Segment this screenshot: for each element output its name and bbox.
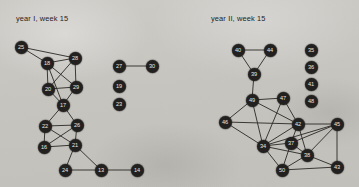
graph-node-25: 25 [15,41,28,54]
graph-node-24: 24 [59,164,72,177]
graph-edge [263,98,283,146]
graph-node-44: 44 [264,44,277,57]
graph-node-17: 17 [57,99,70,112]
graph-node-29: 29 [70,81,83,94]
graph-node-13: 13 [95,164,108,177]
graph-node-42: 42 [292,118,305,131]
graph-edge [252,100,263,146]
graph-node-18: 18 [41,57,54,70]
graph-node-21: 21 [69,139,82,152]
graph-edge [252,100,298,124]
graph-node-46: 46 [219,116,232,129]
graph-node-39: 39 [248,68,261,81]
graph-node-20: 20 [42,83,55,96]
graph-edge [225,122,298,124]
graph-node-28: 28 [69,52,82,65]
sociogram-figure: year I, week 15 year II, week 15 2518282… [0,0,359,187]
graph-node-41: 41 [305,78,318,91]
graph-node-16: 16 [38,141,51,154]
graph-node-34: 34 [257,140,270,153]
graph-node-27: 27 [113,60,126,73]
graph-node-14: 14 [131,164,144,177]
graph-node-30: 30 [146,60,159,73]
graph-node-35: 35 [305,44,318,57]
panel-title-year-2: year II, week 15 [211,14,266,23]
graph-node-45: 45 [331,118,344,131]
graph-node-22: 22 [39,120,52,133]
graph-node-19: 19 [113,80,126,93]
graph-node-43: 43 [331,161,344,174]
panel-title-year-1: year I, week 15 [16,14,68,23]
graph-edge [282,167,337,170]
graph-node-37: 37 [285,137,298,150]
graph-node-26: 26 [71,119,84,132]
graph-node-50: 50 [276,164,289,177]
graph-node-40: 40 [232,44,245,57]
graph-node-48: 48 [305,95,318,108]
graph-node-23: 23 [113,98,126,111]
graph-node-49: 49 [246,94,259,107]
graph-node-47: 47 [277,92,290,105]
graph-node-38: 38 [301,149,314,162]
graph-node-36: 36 [305,61,318,74]
